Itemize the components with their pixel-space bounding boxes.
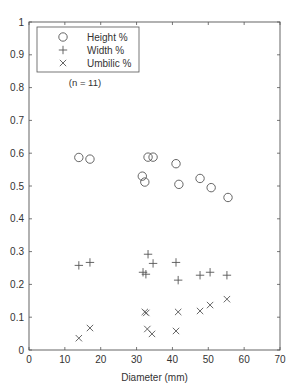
- series-width: [75, 250, 231, 284]
- y-tick-label: 0.7: [10, 115, 24, 126]
- data-point-circle: [196, 174, 204, 182]
- y-tick-label: 0.8: [10, 82, 24, 93]
- data-marks: [75, 153, 233, 341]
- x-axis-label: Diameter (mm): [121, 372, 188, 383]
- y-tick-label: 0.2: [10, 279, 24, 290]
- data-point-plus: [86, 258, 94, 266]
- y-tick-label: 0.4: [10, 213, 24, 224]
- data-point-x: [173, 328, 179, 334]
- data-point-circle: [86, 155, 94, 163]
- data-point-circle: [224, 193, 232, 201]
- data-point-plus: [206, 268, 214, 276]
- series-umbilic: [76, 296, 230, 341]
- data-point-x: [207, 302, 213, 308]
- data-point-plus: [174, 276, 182, 284]
- x-tick-label: 30: [131, 354, 143, 365]
- data-point-plus: [75, 261, 83, 269]
- x-tick-label: 60: [239, 354, 251, 365]
- data-point-x: [149, 331, 155, 337]
- data-point-x: [197, 308, 203, 314]
- sample-size-annotation: (n = 11): [69, 77, 101, 88]
- legend-label: Width %: [87, 45, 124, 56]
- data-point-x: [175, 309, 181, 315]
- x-tick-label: 40: [167, 354, 179, 365]
- data-point-x: [87, 325, 93, 331]
- scatter-chart: 01020304050607000.10.20.30.40.50.60.70.8…: [0, 0, 295, 391]
- data-point-circle: [75, 153, 83, 161]
- y-tick-label: 0: [18, 345, 24, 356]
- data-point-circle: [175, 180, 183, 188]
- data-point-plus: [196, 271, 204, 279]
- data-point-plus: [149, 259, 157, 267]
- data-point-circle: [149, 153, 157, 161]
- x-tick-label: 10: [59, 354, 71, 365]
- legend-label: Height %: [87, 32, 128, 43]
- data-point-plus: [223, 271, 231, 279]
- data-point-circle: [144, 153, 152, 161]
- y-tick-label: 1: [18, 17, 24, 28]
- legend-label: Umbilic %: [87, 58, 132, 69]
- y-tick-label: 0.9: [10, 49, 24, 60]
- data-point-plus: [172, 258, 180, 266]
- x-tick-label: 20: [95, 354, 107, 365]
- x-tick-label: 70: [274, 354, 286, 365]
- data-point-x: [224, 296, 230, 302]
- y-tick-label: 0.6: [10, 148, 24, 159]
- legend: Height %Width %Umbilic %: [37, 27, 139, 72]
- data-point-circle: [207, 183, 215, 191]
- x-tick-label: 50: [203, 354, 215, 365]
- y-tick-label: 0.1: [10, 312, 24, 323]
- data-point-circle: [172, 159, 180, 167]
- y-tick-label: 0.3: [10, 246, 24, 257]
- data-point-plus: [144, 250, 152, 258]
- y-tick-label: 0.5: [10, 181, 24, 192]
- series-height: [75, 153, 233, 202]
- data-point-x: [76, 335, 82, 341]
- x-tick-label: 0: [26, 354, 32, 365]
